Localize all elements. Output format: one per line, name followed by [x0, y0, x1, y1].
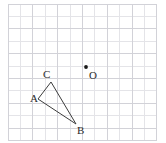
point-label-c: C — [43, 69, 50, 80]
grid-major-lines — [8, 4, 157, 140]
point-label-o: O — [89, 70, 97, 81]
geometry-figure: A B C O — [0, 0, 166, 143]
figure-canvas — [0, 0, 166, 143]
point-markers — [84, 65, 88, 69]
point-label-b: B — [77, 125, 84, 136]
point-label-a: A — [30, 93, 38, 104]
point-dot-o — [84, 65, 88, 69]
